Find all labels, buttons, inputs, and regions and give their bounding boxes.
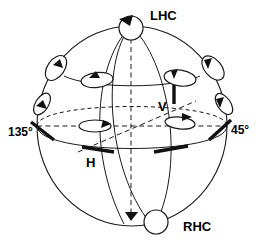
ellipse-shape [212,90,236,117]
poincare-sphere-figure: LHC RHC 135° 45° H V [0,0,265,245]
label-rhc: RHC [183,220,211,233]
ellipse-shape [163,68,197,88]
meridian-front-right [131,26,171,224]
label-lhc: LHC [150,9,177,22]
label-horizontal: H [86,156,95,169]
ellipse-shape [197,52,228,84]
state-ellipse-upper-right-inner [163,68,197,88]
vertical-axis-arrow-icon [125,212,138,221]
state-ellipse-front-right [164,115,195,130]
label-135-degrees: 135° [8,126,33,138]
equator-front-solid [37,126,227,149]
state-ellipse-mid-right [212,90,236,117]
state-ellipse-upper-right-outer [197,52,228,84]
equator-back-dashed [37,107,227,127]
ellipse-shape [164,115,195,130]
linear-state-135-bar [31,122,54,140]
poincare-sphere-canvas [0,0,265,245]
label-45-degrees: 45° [231,124,249,136]
label-vertical: V [158,100,167,113]
state-ellipse-upper-left-outer [41,52,71,85]
linear-state-45-bar [209,120,231,140]
ellipse-shape [41,52,71,85]
rhc-pole-circle [144,210,168,234]
